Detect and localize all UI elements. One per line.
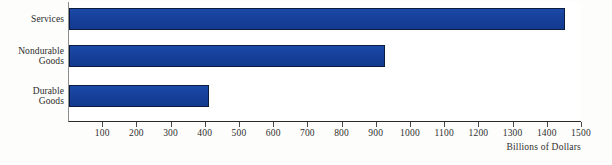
x-axis-tick-labels: 1002003004005006007008009001000110012001… (0, 127, 612, 141)
x-tick-label: 600 (266, 127, 281, 139)
x-tick-label: 400 (197, 127, 212, 139)
bar-nondurable-goods (69, 45, 385, 67)
category-label-nondurable-goods: NondurableGoods (0, 46, 64, 67)
category-label-services: Services (0, 14, 64, 25)
x-tick-label: 500 (232, 127, 247, 139)
category-label-line: Durable (0, 86, 64, 97)
x-axis-title: Billions of Dollars (506, 141, 581, 153)
category-label-line: Services (0, 14, 64, 25)
x-tick-label: 1200 (468, 127, 488, 139)
category-label-line: Goods (0, 56, 64, 67)
x-tick-label: 900 (368, 127, 383, 139)
x-tick-label: 700 (300, 127, 315, 139)
category-label-line: Goods (0, 96, 64, 107)
plot-area (68, 2, 581, 122)
x-tick-label: 100 (95, 127, 110, 139)
bar-durable-goods (69, 85, 209, 107)
x-tick-label: 800 (334, 127, 349, 139)
x-tick-label: 1400 (537, 127, 557, 139)
bar-services (69, 8, 565, 30)
category-label-line: Nondurable (0, 46, 64, 57)
x-tick-label: 300 (163, 127, 178, 139)
horizontal-bar-chart: ServicesNondurableGoodsDurableGoods 1002… (0, 0, 612, 165)
x-tick-label: 1500 (571, 127, 591, 139)
x-tick-label: 1300 (503, 127, 523, 139)
category-axis-labels: ServicesNondurableGoodsDurableGoods (0, 0, 64, 122)
x-tick-label: 1100 (434, 127, 453, 139)
category-label-durable-goods: DurableGoods (0, 86, 64, 107)
x-tick-label: 200 (129, 127, 144, 139)
x-tick-label: 1000 (400, 127, 420, 139)
